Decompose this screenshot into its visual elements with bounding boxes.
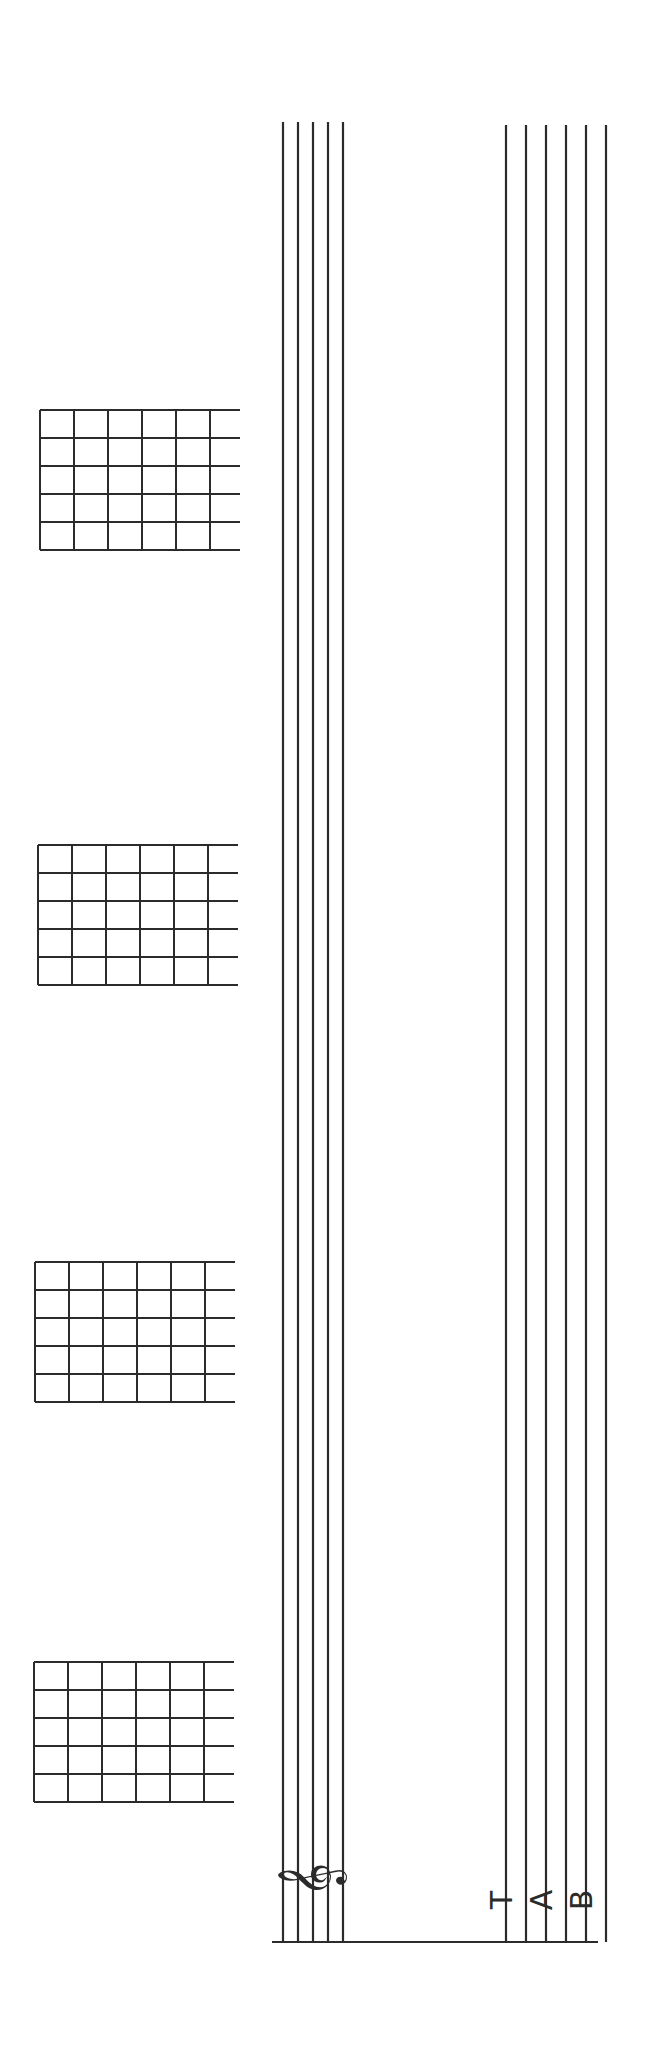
chord-diagram	[38, 845, 238, 985]
chord-diagrams	[34, 410, 240, 1802]
chord-diagram	[40, 410, 240, 550]
blank-guitar-sheet: 𝄞 TAB	[0, 0, 646, 2048]
tab-letter: B	[564, 1890, 599, 1911]
tab-staff	[506, 125, 606, 1942]
tab-letter: A	[524, 1889, 559, 1910]
chord-diagram	[35, 1262, 235, 1402]
treble-clef-icon: 𝄞	[276, 1863, 347, 1897]
chord-diagram	[34, 1662, 234, 1802]
music-staff	[283, 122, 343, 1942]
tab-clef-label: TAB	[484, 1889, 599, 1910]
tab-letter: T	[484, 1890, 519, 1910]
